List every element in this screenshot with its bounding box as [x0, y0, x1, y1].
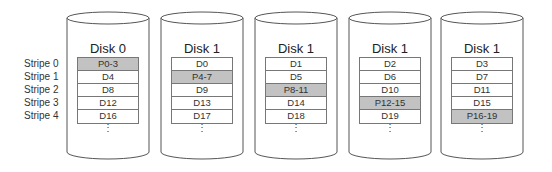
ellipsis-icon: ⋮ — [66, 126, 150, 130]
stripe-label: Stripe 4 — [24, 109, 58, 122]
disk-2: Disk 1 D1 D5 P8-11 D14 D18 ⋮ — [254, 10, 338, 160]
parity-block: P8-11 — [266, 84, 326, 97]
stripe-label: Stripe 3 — [24, 96, 58, 109]
data-block: D12 — [78, 97, 138, 110]
disk-4: Disk 1 D3 D7 D11 D15 P16-19 ⋮ — [440, 10, 524, 160]
data-block: D13 — [172, 97, 232, 110]
disk-3: Disk 1 D2 D6 D10 P12-15 D19 ⋮ — [348, 10, 432, 160]
parity-block: P4-7 — [172, 71, 232, 84]
disk-title: Disk 1 — [348, 41, 432, 56]
data-block: D0 — [172, 58, 232, 71]
ellipsis-icon: ⋮ — [160, 126, 244, 130]
data-block: D6 — [360, 71, 420, 84]
disk-title: Disk 0 — [66, 41, 150, 56]
block-column: D2 D6 D10 P12-15 D19 — [359, 57, 421, 124]
stripe-label: Stripe 0 — [24, 57, 58, 70]
disk-1: Disk 1 D0 P4-7 D9 D13 D17 ⋮ — [160, 10, 244, 160]
disk-0: Disk 0 P0-3 D4 D8 D12 D16 ⋮ — [66, 10, 150, 160]
data-block: D3 — [452, 58, 512, 71]
disk-title: Disk 1 — [440, 41, 524, 56]
data-block: D1 — [266, 58, 326, 71]
data-block: D10 — [360, 84, 420, 97]
block-column: P0-3 D4 D8 D12 D16 — [77, 57, 139, 124]
data-block: D14 — [266, 97, 326, 110]
parity-block: P12-15 — [360, 97, 420, 110]
data-block: D11 — [452, 84, 512, 97]
block-column: D3 D7 D11 D15 P16-19 — [451, 57, 513, 124]
parity-block: P0-3 — [78, 58, 138, 71]
data-block: D2 — [360, 58, 420, 71]
stripe-label: Stripe 2 — [24, 83, 58, 96]
data-block: D15 — [452, 97, 512, 110]
disk-title: Disk 1 — [160, 41, 244, 56]
ellipsis-icon: ⋮ — [348, 126, 432, 130]
data-block: D9 — [172, 84, 232, 97]
ellipsis-icon: ⋮ — [254, 126, 338, 130]
stripe-labels: Stripe 0 Stripe 1 Stripe 2 Stripe 3 Stri… — [24, 57, 58, 122]
ellipsis-icon: ⋮ — [440, 126, 524, 130]
block-column: D1 D5 P8-11 D14 D18 — [265, 57, 327, 124]
data-block: D8 — [78, 84, 138, 97]
data-block: D4 — [78, 71, 138, 84]
disk-title: Disk 1 — [254, 41, 338, 56]
data-block: D7 — [452, 71, 512, 84]
stripe-label: Stripe 1 — [24, 70, 58, 83]
block-column: D0 P4-7 D9 D13 D17 — [171, 57, 233, 124]
data-block: D5 — [266, 71, 326, 84]
